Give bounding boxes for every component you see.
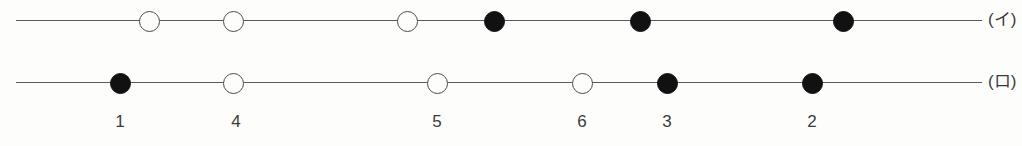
tick-label-5: 5	[432, 113, 441, 130]
node-row-ro-2-open	[223, 73, 244, 94]
node-row-ro-3-open	[427, 73, 448, 94]
node-row-ro-4-open	[572, 73, 593, 94]
node-row-i-5-filled	[630, 11, 651, 32]
node-row-i-3-open	[397, 11, 418, 32]
track-line-row-i	[16, 20, 982, 21]
node-row-ro-1-filled	[110, 73, 131, 94]
node-row-i-1-open	[139, 11, 160, 32]
tick-label-1: 1	[115, 113, 124, 130]
node-row-ro-5-filled	[657, 73, 678, 94]
tick-label-3: 3	[662, 113, 671, 130]
node-row-i-2-open	[223, 11, 244, 32]
node-row-ro-6-filled	[802, 73, 823, 94]
track-row-ro: (ロ)	[0, 0, 1022, 146]
tick-label-4: 4	[231, 113, 240, 130]
node-row-i-4-filled	[484, 11, 505, 32]
tick-label-6: 6	[577, 113, 586, 130]
tick-label-2: 2	[807, 113, 816, 130]
node-sequence-diagram: (イ) (ロ) 145632	[0, 0, 1022, 146]
track-row-i: (イ)	[0, 0, 1022, 146]
node-row-i-6-filled	[833, 11, 854, 32]
row-label-ro: (ロ)	[988, 73, 1016, 90]
track-line-row-ro	[16, 82, 982, 83]
row-label-i: (イ)	[988, 11, 1016, 28]
